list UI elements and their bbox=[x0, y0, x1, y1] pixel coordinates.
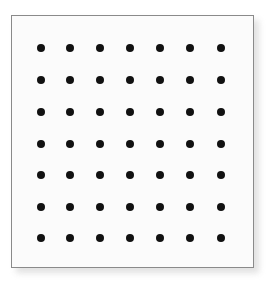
grid-dot-r6-c1 bbox=[37, 203, 45, 211]
grid-dot-r6-c4 bbox=[126, 203, 134, 211]
grid-dot-r6-c2 bbox=[66, 203, 74, 211]
grid-dot-r1-c3 bbox=[96, 44, 104, 52]
grid-dot-r6-c5 bbox=[156, 203, 164, 211]
grid-dot-r1-c7 bbox=[217, 44, 225, 52]
grid-dot-r3-c3 bbox=[96, 108, 104, 116]
grid-dot-r2-c1 bbox=[37, 76, 45, 84]
grid-dot-r5-c1 bbox=[37, 171, 45, 179]
grid-dot-r4-c7 bbox=[217, 140, 225, 148]
grid-dot-r3-c6 bbox=[186, 108, 194, 116]
grid-dot-r7-c5 bbox=[156, 234, 164, 242]
grid-dot-r7-c3 bbox=[96, 234, 104, 242]
grid-dot-r2-c2 bbox=[66, 76, 74, 84]
grid-dot-r6-c3 bbox=[96, 203, 104, 211]
grid-dot-r3-c5 bbox=[156, 108, 164, 116]
grid-dot-r7-c7 bbox=[217, 234, 225, 242]
grid-dot-r2-c4 bbox=[126, 76, 134, 84]
grid-dot-r2-c3 bbox=[96, 76, 104, 84]
grid-dot-r7-c2 bbox=[66, 234, 74, 242]
grid-dot-r4-c6 bbox=[186, 140, 194, 148]
grid-dot-r7-c4 bbox=[126, 234, 134, 242]
grid-dot-r5-c2 bbox=[66, 171, 74, 179]
grid-dot-r4-c3 bbox=[96, 140, 104, 148]
dot-grid bbox=[12, 16, 253, 267]
grid-dot-r2-c7 bbox=[217, 76, 225, 84]
grid-dot-r7-c6 bbox=[186, 234, 194, 242]
grid-dot-r6-c6 bbox=[186, 203, 194, 211]
grid-dot-r1-c2 bbox=[66, 44, 74, 52]
grid-dot-r3-c1 bbox=[37, 108, 45, 116]
grid-dot-r2-c5 bbox=[156, 76, 164, 84]
grid-dot-r1-c4 bbox=[126, 44, 134, 52]
grid-dot-r1-c1 bbox=[37, 44, 45, 52]
grid-dot-r4-c1 bbox=[37, 140, 45, 148]
grid-dot-r3-c2 bbox=[66, 108, 74, 116]
grid-dot-r6-c7 bbox=[217, 203, 225, 211]
grid-dot-r2-c6 bbox=[186, 76, 194, 84]
grid-dot-r5-c7 bbox=[217, 171, 225, 179]
grid-dot-r1-c6 bbox=[186, 44, 194, 52]
grid-dot-r5-c5 bbox=[156, 171, 164, 179]
grid-dot-r5-c6 bbox=[186, 171, 194, 179]
grid-dot-r5-c3 bbox=[96, 171, 104, 179]
grid-dot-r5-c4 bbox=[126, 171, 134, 179]
grid-dot-r4-c5 bbox=[156, 140, 164, 148]
grid-dot-r1-c5 bbox=[156, 44, 164, 52]
dot-grid-panel bbox=[11, 15, 254, 268]
grid-dot-r4-c4 bbox=[126, 140, 134, 148]
grid-dot-r7-c1 bbox=[37, 234, 45, 242]
grid-dot-r3-c4 bbox=[126, 108, 134, 116]
grid-dot-r4-c2 bbox=[66, 140, 74, 148]
dot-grid-figure bbox=[0, 0, 267, 282]
grid-dot-r3-c7 bbox=[217, 108, 225, 116]
